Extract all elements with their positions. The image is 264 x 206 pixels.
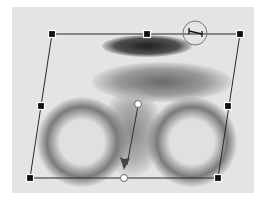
handle-bottom-right[interactable] xyxy=(215,175,222,182)
skew-cursor-icon xyxy=(189,28,202,37)
handle-top-right[interactable] xyxy=(237,31,244,38)
handle-left-middle[interactable] xyxy=(38,103,45,110)
handle-top-left[interactable] xyxy=(49,31,56,38)
drag-arrow-head-icon xyxy=(120,157,130,170)
drag-arrow-line xyxy=(127,106,138,165)
handle-top-middle[interactable] xyxy=(144,31,151,38)
handle-bottom-left[interactable] xyxy=(27,175,34,182)
transform-overlay[interactable] xyxy=(0,0,264,206)
handle-bottom-middle[interactable] xyxy=(121,175,128,182)
center-point-handle[interactable] xyxy=(135,101,142,108)
handle-right-middle[interactable] xyxy=(225,103,232,110)
